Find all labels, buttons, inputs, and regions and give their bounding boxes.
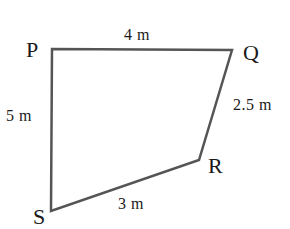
vertex-label-s: S [33, 206, 45, 228]
vertex-label-r: R [208, 155, 223, 177]
quadrilateral-pqrs [51, 49, 232, 211]
side-label-qr: 2.5 m [233, 97, 272, 113]
vertex-label-p: P [26, 39, 38, 61]
side-label-sp: 5 m [6, 108, 32, 124]
side-label-pq: 4 m [124, 27, 150, 43]
quadrilateral-diagram: P Q R S 4 m 2.5 m 5 m 3 m [0, 0, 290, 229]
side-label-rs: 3 m [118, 196, 144, 212]
vertex-label-q: Q [243, 42, 259, 64]
